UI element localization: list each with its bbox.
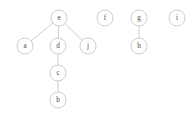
- graph-node-h[interactable]: h: [131, 38, 147, 54]
- graph-node-label-j: j: [86, 42, 89, 50]
- graph-node-d[interactable]: d: [50, 38, 66, 54]
- graph-node-b[interactable]: b: [50, 92, 66, 108]
- graph-node-c[interactable]: c: [50, 65, 66, 81]
- graph-node-label-g: g: [137, 14, 141, 22]
- graph-node-label-d: d: [56, 42, 60, 50]
- node-layer: efgiadjhcb: [17, 10, 185, 108]
- graph-node-label-e: e: [57, 14, 60, 22]
- graph-node-g[interactable]: g: [131, 10, 147, 26]
- edge-layer: [31, 23, 139, 92]
- graph-node-label-b: b: [56, 96, 60, 104]
- graph-edge-e-j: [65, 24, 82, 41]
- graph-node-a[interactable]: a: [17, 38, 33, 54]
- graph-node-label-h: h: [137, 42, 141, 50]
- graph-edge-e-a: [31, 23, 53, 41]
- graph-node-i[interactable]: i: [169, 10, 185, 26]
- graph-node-label-i: i: [176, 14, 178, 22]
- graph-node-j[interactable]: j: [80, 38, 96, 54]
- graph-node-e[interactable]: e: [51, 10, 67, 26]
- graph-diagram-canvas: efgiadjhcb: [0, 0, 195, 117]
- graph-node-f[interactable]: f: [97, 10, 113, 26]
- graph-node-label-c: c: [56, 69, 59, 77]
- graph-diagram-svg: efgiadjhcb: [0, 0, 195, 117]
